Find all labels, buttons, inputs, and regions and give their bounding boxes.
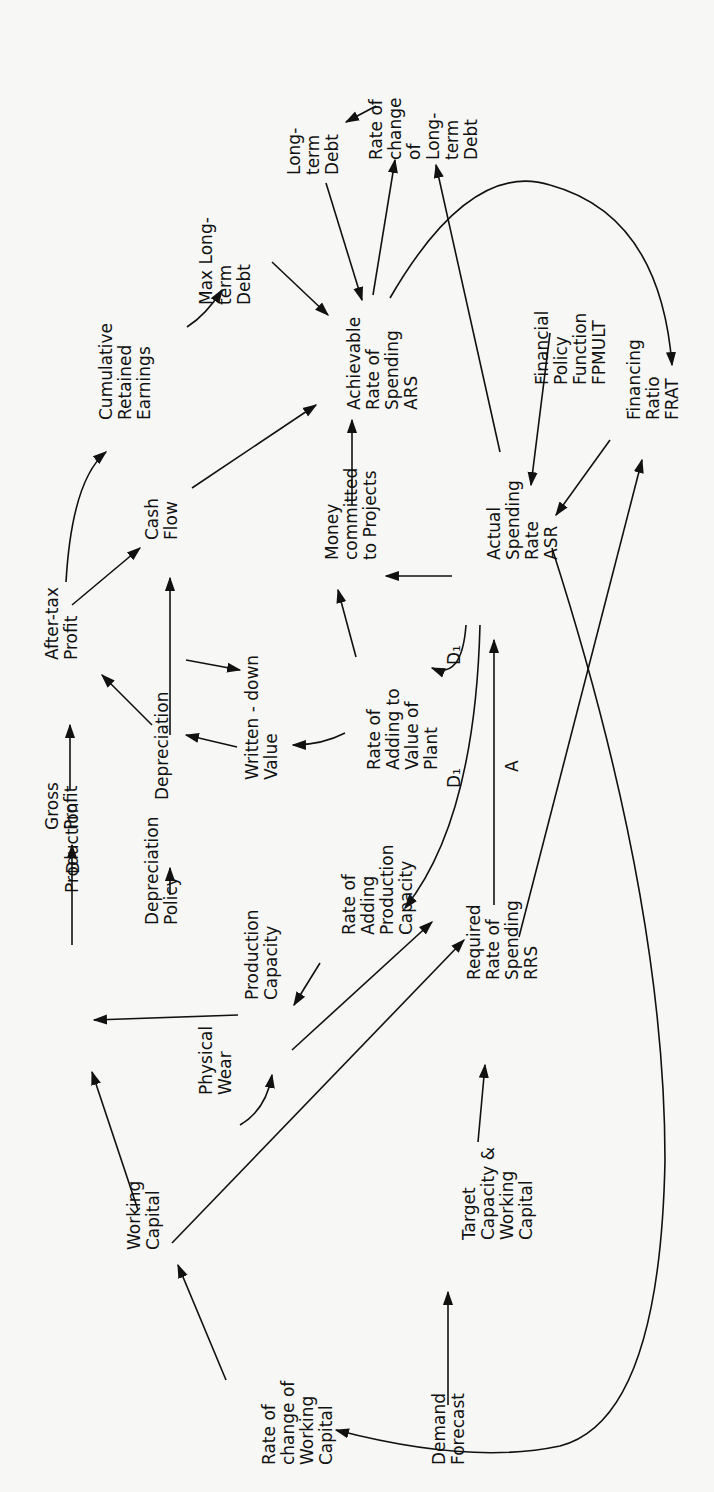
node-label-line: Money [322, 504, 342, 560]
node-label-line: Financial [532, 311, 552, 385]
node-required-rate-spending: RequiredRate ofSpendingRRS [464, 900, 541, 980]
node-label-line: Max Long- [196, 217, 216, 305]
node-depreciation: Depreciation [152, 692, 172, 800]
edge-asr-rate-change-wc [336, 548, 665, 1453]
node-label-line: Target [459, 1187, 479, 1241]
node-label-line: Spending [503, 480, 523, 560]
label-a-symbol: A [502, 760, 522, 772]
edge-depreciation-after-tax [102, 675, 152, 725]
node-label-line: Cash [142, 498, 162, 540]
node-label-line: Physical [196, 1026, 216, 1095]
delay-d1-symbol-capacity: D₁ [444, 768, 464, 788]
node-label-line: Long- [284, 128, 304, 175]
node-rate-adding-value-plant: Rate ofAdding toValue ofPlant [364, 688, 441, 770]
node-rate-change-long-term-debt: Rate ofchangeofLong-termDebt [366, 97, 481, 160]
node-money-committed: Moneycommittedto Projects [322, 468, 380, 560]
node-label-line: term [215, 265, 235, 305]
delay-d1-symbol-plant: D₁ [444, 645, 464, 665]
node-rate-change-working-capital: Rate ofchange ofWorkingCapital [259, 1380, 336, 1465]
node-label-line: Plant [421, 727, 441, 770]
node-target-capacity-working-capital: TargetCapacity &WorkingCapital [459, 1147, 536, 1241]
node-label-line: Forecast [448, 1393, 468, 1465]
node-label-line: Achievable [344, 317, 364, 410]
node-label-line: change of [278, 1380, 298, 1465]
edge-target-rrs [478, 1065, 485, 1142]
node-label-line: Capital [316, 1405, 336, 1465]
node-cumulative-retained-earnings: CumulativeRetainedEarnings [96, 323, 154, 420]
node-label-line: Rate of [259, 1403, 279, 1465]
node-label-line: change [385, 97, 405, 160]
node-label-line: Retained [115, 345, 135, 420]
edge-written-down-depreciation [186, 735, 237, 747]
node-label-line: Value of [402, 701, 422, 770]
edge-max-debt-ars [272, 262, 328, 315]
node-label-line: committed [341, 468, 361, 560]
edge-depreciation-written-down [186, 660, 240, 670]
node-label-line: Required [464, 904, 484, 980]
node-working-capital: WorkingCapital [124, 1181, 163, 1250]
edge-ars-frat [390, 181, 672, 365]
node-label-line: Earnings [134, 346, 154, 420]
node-label-line: Rate of [364, 708, 384, 770]
node-achievable-rate-spending: AchievableRate ofSpendingARS [344, 317, 421, 410]
node-label-line: Depreciation [142, 817, 162, 925]
node-label-line: After-tax [42, 587, 62, 660]
edge-after-tax-cash-flow [72, 548, 140, 605]
node-label-line: Profit [61, 785, 81, 830]
flow-diagram: D D₁ D₁ A ProductionGrossProfitAfter-tax… [0, 0, 714, 1492]
edge-capacity-production [94, 1015, 238, 1020]
node-label-line: Working [124, 1181, 144, 1250]
node-label-line: Profit [61, 615, 81, 660]
node-label-line: Working [297, 1396, 317, 1465]
node-label-line: Depreciation [152, 692, 172, 800]
node-label-line: of [404, 143, 424, 160]
node-financial-policy-function: FinancialPolicyFunctionFPMULT [532, 311, 609, 385]
diagram-canvas: D D₁ D₁ A ProductionGrossProfitAfter-tax… [0, 0, 714, 1492]
node-cash-flow: CashFlow [142, 498, 181, 540]
node-label-line: Capacity [261, 926, 281, 1000]
node-label-line: Value [261, 733, 281, 780]
node-label-line: Written - down [242, 655, 262, 780]
edge-plant-value-money [338, 590, 356, 657]
node-actual-spending-rate: ActualSpendingRateASR [484, 480, 561, 560]
node-label-line: Rate of [339, 873, 359, 935]
node-label-line: Rate [522, 521, 542, 560]
node-label-line: FPMULT [589, 320, 609, 385]
edge-frat-asr [556, 440, 610, 515]
edge-plant-value-written-down [293, 733, 345, 745]
node-label-line: Financing [624, 339, 644, 420]
edge-physical-wear-capacity [240, 1075, 272, 1125]
node-label-line: Adding to [383, 688, 403, 770]
node-label-line: Production [242, 910, 262, 1000]
node-label-line: Spending [502, 900, 522, 980]
node-demand-forecast: DemandForecast [429, 1393, 468, 1465]
node-label-line: Gross [42, 782, 62, 830]
node-label-line: Working [497, 1171, 517, 1240]
edge-capacity-rrs [292, 922, 432, 1050]
node-rate-adding-production-capacity: Rate ofAddingProductionCapacity [339, 845, 416, 935]
node-label-line: Debt [461, 119, 481, 160]
node-label-line: Rate of [363, 348, 383, 410]
node-label-line: term [303, 135, 323, 175]
node-production-capacity: ProductionCapacity [242, 910, 281, 1000]
node-label-line: Policy [161, 876, 181, 925]
node-label-line: Function [570, 313, 590, 385]
edge-adding-capacity-capacity [294, 963, 320, 1005]
node-physical-wear: PhysicalWear [196, 1026, 235, 1095]
node-label-line: Long- [423, 113, 443, 160]
edge-after-tax-retained-earnings [66, 452, 106, 582]
node-label-line: Capacity [396, 861, 416, 935]
edge-long-term-debt-ars [326, 183, 362, 300]
node-label-line: Policy [551, 336, 571, 385]
node-label-line: ASR [541, 526, 561, 560]
node-label-line: Actual [484, 507, 504, 560]
node-label-line: to Projects [360, 470, 380, 560]
node-label-line: FRAT [662, 378, 682, 420]
node-gross-profit: GrossProfit [42, 782, 81, 830]
node-label-line: Wear [215, 1051, 235, 1095]
node-label-line: Ratio [643, 376, 663, 420]
edge-symbols-layer: D D₁ D₁ A [63, 645, 522, 874]
node-label-line: Debt [322, 134, 342, 175]
node-label-line: Rate of [366, 98, 386, 160]
edge-rate-change-wc-wc [178, 1265, 226, 1380]
